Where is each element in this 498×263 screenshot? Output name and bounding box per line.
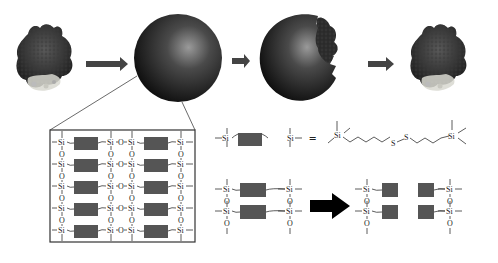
o-label: O — [59, 216, 65, 225]
o-label: O — [178, 216, 184, 225]
o-label: O — [118, 182, 124, 191]
si-label: Si — [287, 134, 294, 143]
diagram-canvas: SiSiSiSiOOOOOSiSiSiSiOOOOOSiSiSiSiOOOOOS… — [0, 0, 498, 263]
si-label: Si — [58, 160, 65, 169]
si-label: Si — [58, 182, 65, 191]
protein-icon — [16, 24, 72, 91]
si-label: Si — [363, 185, 370, 194]
o-label: O — [178, 194, 184, 203]
o-label: O — [118, 204, 124, 213]
zoom-line-left — [50, 76, 137, 130]
si-label: Si — [446, 185, 453, 194]
equals-sign: = — [309, 131, 316, 146]
o-label: O — [287, 219, 293, 228]
si-label: Si — [107, 204, 114, 213]
si-label: Si — [58, 204, 65, 213]
o-label: O — [178, 172, 184, 181]
released-protein-icon — [410, 24, 466, 91]
o-label: O — [129, 150, 135, 159]
si-label: Si — [58, 138, 65, 147]
arrow-icon — [368, 57, 394, 71]
o-label: O — [364, 219, 370, 228]
si-label: Si — [286, 185, 293, 194]
si-label: Si — [363, 207, 370, 216]
si-label: Si — [107, 138, 114, 147]
o-label: O — [108, 216, 114, 225]
si-label: Si — [334, 131, 341, 140]
o-label: O — [129, 216, 135, 225]
arrow-icon — [86, 57, 128, 71]
si-label: Si — [128, 160, 135, 169]
nanoparticle-sphere — [134, 14, 222, 102]
si-label: Si — [223, 185, 230, 194]
o-label: O — [118, 226, 124, 235]
o-label: O — [59, 150, 65, 159]
si-label: Si — [177, 138, 184, 147]
o-label: O — [59, 172, 65, 181]
sulfur-label: S — [404, 133, 408, 142]
o-label: O — [108, 172, 114, 181]
arrow-icon — [232, 54, 250, 68]
si-label: Si — [177, 160, 184, 169]
si-label: Si — [286, 207, 293, 216]
o-label: O — [108, 150, 114, 159]
si-label: Si — [446, 207, 453, 216]
si-label: Si — [128, 182, 135, 191]
o-label: O — [108, 194, 114, 203]
si-label: Si — [177, 204, 184, 213]
o-label: O — [118, 138, 124, 147]
si-label: Si — [128, 204, 135, 213]
degrading-nanoparticle — [260, 14, 338, 100]
silica-network-inset: SiSiSiSiOOOOOSiSiSiSiOOOOOSiSiSiSiOOOOOS… — [50, 130, 195, 242]
o-label: O — [447, 219, 453, 228]
sulfur-label: S — [391, 139, 395, 148]
reaction-arrow-icon — [310, 193, 350, 219]
o-label: O — [129, 172, 135, 181]
si-label: Si — [222, 134, 229, 143]
si-label: Si — [128, 138, 135, 147]
o-label: O — [118, 160, 124, 169]
si-label: Si — [177, 226, 184, 235]
si-label: Si — [58, 226, 65, 235]
si-label: Si — [223, 207, 230, 216]
linker-definition: Si Si = Si S S Si — [215, 120, 466, 148]
si-label: Si — [107, 182, 114, 191]
si-label: Si — [177, 182, 184, 191]
o-label: O — [224, 219, 230, 228]
zoom-line-right — [182, 102, 195, 130]
si-label: Si — [107, 160, 114, 169]
o-label: O — [129, 194, 135, 203]
si-label: Si — [448, 132, 455, 141]
o-label: O — [59, 194, 65, 203]
si-label: Si — [128, 226, 135, 235]
o-label: O — [178, 150, 184, 159]
si-label: Si — [107, 226, 114, 235]
